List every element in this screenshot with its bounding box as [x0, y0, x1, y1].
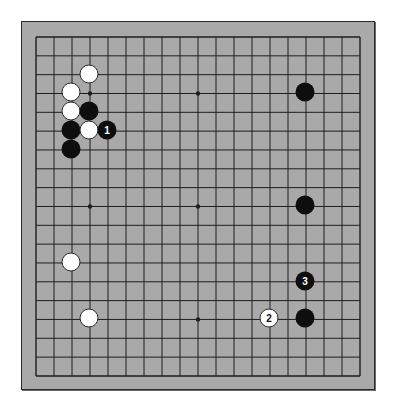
black-stone [62, 139, 81, 158]
black-stone-move-3: 3 [296, 271, 315, 290]
white-stone [80, 64, 99, 83]
black-stone [62, 121, 81, 140]
white-stone [80, 309, 99, 328]
white-stone-move-2: 2 [260, 309, 279, 328]
black-stone-move-1: 1 [98, 121, 117, 140]
star-point [196, 317, 200, 321]
move-number: 1 [104, 125, 110, 136]
black-stone [80, 102, 99, 121]
star-point [196, 91, 200, 95]
move-number: 3 [302, 275, 308, 286]
board-grid [22, 22, 376, 391]
star-point [88, 91, 92, 95]
black-stone [296, 196, 315, 215]
move-number: 2 [266, 313, 272, 324]
black-stone [296, 309, 315, 328]
go-board [21, 21, 375, 390]
white-stone [62, 252, 81, 271]
white-stone [62, 102, 81, 121]
star-point [196, 204, 200, 208]
star-point [88, 204, 92, 208]
white-stone [62, 83, 81, 102]
black-stone [296, 83, 315, 102]
white-stone [80, 121, 99, 140]
